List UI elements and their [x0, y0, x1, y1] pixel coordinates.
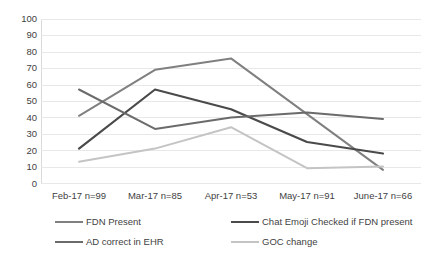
legend-swatch-icon	[231, 241, 259, 243]
y-axis-tick-label: 10	[3, 162, 37, 171]
legend-swatch-icon	[55, 221, 83, 223]
legend-item[interactable]: AD correct in EHR	[55, 236, 164, 247]
chart-legend: FDN Present Chat Emoji Checked if FDN pr…	[41, 216, 423, 256]
gridline	[41, 183, 421, 184]
legend-label: AD correct in EHR	[86, 236, 164, 247]
legend-item[interactable]: Chat Emoji Checked if FDN present	[231, 216, 412, 227]
series-layer	[41, 19, 421, 183]
legend-swatch-icon	[231, 221, 259, 223]
legend-item[interactable]: FDN Present	[55, 216, 141, 227]
legend-item[interactable]: GOC change	[231, 236, 317, 247]
y-axis-tick-label: 80	[3, 47, 37, 56]
x-axis-tick-label: Feb-17 n=99	[52, 190, 106, 201]
legend-label: Chat Emoji Checked if FDN present	[262, 216, 412, 227]
plot-area	[41, 19, 421, 183]
line-chart: 100 90 80 70 60 50 40 30 20 10 0 Feb-17 …	[0, 0, 435, 257]
y-axis-tick-label: 90	[3, 30, 37, 39]
y-axis-tick-label: 0	[3, 179, 37, 188]
y-axis-labels: 100 90 80 70 60 50 40 30 20 10 0	[0, 0, 37, 183]
legend-label: FDN Present	[86, 216, 141, 227]
series-line	[79, 90, 383, 154]
y-axis-tick-label: 20	[3, 146, 37, 155]
y-axis-tick-label: 40	[3, 113, 37, 122]
y-axis-tick-label: 100	[3, 14, 37, 23]
y-axis-tick-label: 70	[3, 63, 37, 72]
x-axis-tick-label: Mar-17 n=85	[128, 190, 182, 201]
legend-swatch-icon	[55, 241, 83, 243]
y-axis-tick-label: 60	[3, 80, 37, 89]
y-axis-tick-label: 50	[3, 96, 37, 105]
y-axis-tick-label: 30	[3, 129, 37, 138]
x-axis-labels: Feb-17 n=99Mar-17 n=85Apr-17 n=53May-17 …	[41, 190, 421, 206]
legend-label: GOC change	[262, 236, 317, 247]
x-axis-tick-label: Apr-17 n=53	[205, 190, 258, 201]
x-axis-tick-label: June-17 n=66	[354, 190, 412, 201]
x-axis-tick-label: May-17 n=91	[279, 190, 335, 201]
